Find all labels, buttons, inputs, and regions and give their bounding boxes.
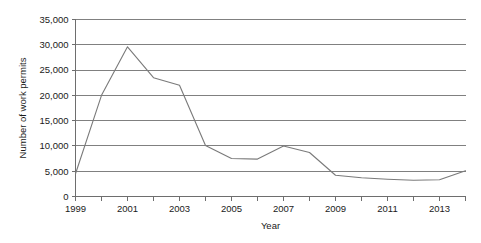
x-tick-label: 1999 [65,203,86,214]
x-tick-marks [76,197,466,201]
line-chart: 05,00010,00015,00020,00025,00030,00035,0… [0,0,481,243]
chart-page: 05,00010,00015,00020,00025,00030,00035,0… [0,0,481,243]
y-tick-label: 35,000 [39,14,68,25]
y-tick-marks [72,20,76,197]
x-axis: 19992001200320052007200920112013 [65,197,466,214]
x-tick-label: 2009 [325,203,346,214]
x-tick-label: 2007 [273,203,294,214]
x-tick-label: 2011 [377,203,397,214]
series-line-work-permits [76,47,466,181]
x-tick-label: 2005 [221,203,242,214]
y-tick-label: 10,000 [39,140,68,151]
y-tick-label: 15,000 [39,115,68,126]
x-tick-label: 2001 [117,203,138,214]
x-tick-labels: 19992001200320052007200920112013 [65,203,450,214]
y-tick-label: 25,000 [39,64,68,75]
y-axis: 05,00010,00015,00020,00025,00030,00035,0… [39,14,75,202]
y-tick-label: 20,000 [39,90,68,101]
y-axis-title: Number of work permits [17,57,28,158]
gridlines-group [76,20,466,172]
y-tick-label: 30,000 [39,39,68,50]
x-tick-label: 2003 [169,203,190,214]
x-tick-label: 2013 [429,203,450,214]
y-tick-labels: 05,00010,00015,00020,00025,00030,00035,0… [39,14,68,202]
y-tick-label: 5,000 [45,166,69,177]
y-tick-label: 0 [63,191,68,202]
x-axis-title: Year [261,220,280,231]
